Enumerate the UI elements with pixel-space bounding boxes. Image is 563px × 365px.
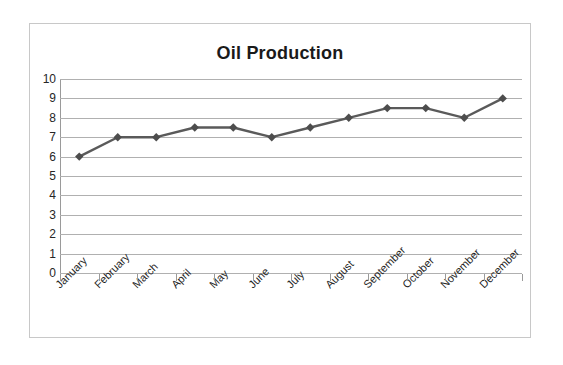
x-axis-tick-labels: JanuaryFebruaryMarchAprilMayJuneJulyAugu… (60, 282, 522, 338)
x-axis-tick (214, 274, 215, 281)
x-axis-tick (60, 274, 61, 281)
data-point-marker (75, 152, 83, 160)
data-point-marker (268, 133, 276, 141)
series-markers (75, 94, 507, 161)
x-axis-tick (176, 274, 177, 281)
data-point-marker (306, 123, 314, 131)
x-axis-tick (137, 274, 138, 281)
data-point-marker (229, 123, 237, 131)
x-axis-tick (407, 274, 408, 281)
data-point-marker (152, 133, 160, 141)
x-axis-tick (522, 274, 523, 281)
x-axis-tick (445, 274, 446, 281)
x-axis-tick (330, 274, 331, 281)
x-axis-tick (368, 274, 369, 281)
data-point-marker (460, 114, 468, 122)
x-axis-tick (484, 274, 485, 281)
data-point-marker (499, 94, 507, 102)
series-polyline (79, 98, 503, 156)
data-point-marker (191, 123, 199, 131)
data-point-marker (114, 133, 122, 141)
data-point-marker (383, 104, 391, 112)
data-point-marker (422, 104, 430, 112)
chart-frame: Oil Production 109876543210 JanuaryFebru… (29, 23, 531, 338)
data-point-marker (345, 114, 353, 122)
x-axis-tick (291, 274, 292, 281)
x-axis-tick (253, 274, 254, 281)
x-axis-tick (99, 274, 100, 281)
